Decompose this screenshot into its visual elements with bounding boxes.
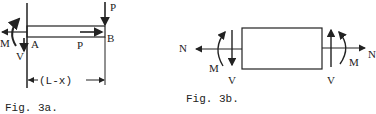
element-box (242, 28, 322, 69)
label-m: M (0, 37, 10, 49)
label-m-left: M (209, 62, 219, 74)
label-n-left: N (179, 42, 187, 54)
diagram-canvas: P B P M A V (L-x) Fig. 3a. N N M M V V F… (0, 0, 376, 114)
label-span: (L-x) (39, 75, 72, 87)
label-p-axial: P (77, 39, 83, 51)
label-b: B (107, 32, 114, 44)
caption-fig-3a: Fig. 3a. (5, 102, 58, 114)
label-v-right: V (327, 74, 335, 86)
figure-3b: N N M M V V Fig. 3b. (179, 28, 376, 105)
label-v: V (16, 50, 24, 62)
caption-fig-3b: Fig. 3b. (186, 93, 239, 105)
dimension-arrowhead-left-icon (28, 77, 34, 83)
label-a: A (31, 38, 39, 50)
label-m-right: M (349, 56, 359, 68)
label-p-top: P (110, 1, 116, 13)
label-v-left: V (228, 74, 236, 86)
label-n-right: N (368, 48, 376, 60)
figure-3a: P B P M A V (L-x) Fig. 3a. (0, 1, 116, 114)
